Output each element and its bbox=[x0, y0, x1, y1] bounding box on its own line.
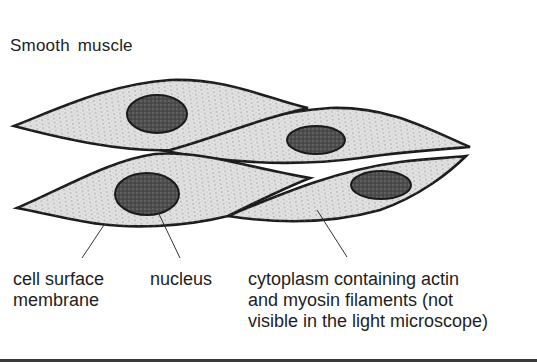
nucleus-4 bbox=[351, 171, 411, 199]
nucleus-2 bbox=[287, 126, 345, 154]
label-line: membrane bbox=[13, 290, 104, 311]
label-line: cytoplasm containing actin bbox=[248, 269, 488, 290]
label-line: visible in the light microscope) bbox=[248, 311, 488, 332]
label-line: nucleus bbox=[150, 269, 212, 290]
label-cytoplasm: cytoplasm containing actin and myosin fi… bbox=[248, 269, 488, 332]
leader-line-membrane bbox=[82, 225, 104, 258]
label-line: cell surface bbox=[13, 269, 104, 290]
label-line: and myosin filaments (not bbox=[248, 290, 488, 311]
nucleus-1 bbox=[127, 95, 187, 133]
label-nucleus: nucleus bbox=[150, 269, 212, 290]
label-cell-surface-membrane: cell surface membrane bbox=[13, 269, 104, 311]
nucleus-3 bbox=[115, 173, 179, 215]
